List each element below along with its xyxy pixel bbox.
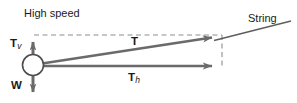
label-tension-vertical-subscript: v [17,41,21,51]
ball-bob [23,55,44,76]
label-tension-horizontal-symbol: T [128,71,135,83]
label-string: String [248,13,277,24]
label-tension-vertical-symbol: T [10,37,17,49]
force-diagram: High speed String Tv W T Th [0,0,297,103]
label-tension: T [131,36,138,48]
label-tension-horizontal-subscript: h [135,75,140,85]
label-tension-vertical: Tv [10,38,21,50]
label-weight: W [11,80,22,92]
label-tension-horizontal: Th [128,72,140,84]
label-high-speed: High speed [24,8,80,19]
tension-vector-arrow [42,38,212,64]
